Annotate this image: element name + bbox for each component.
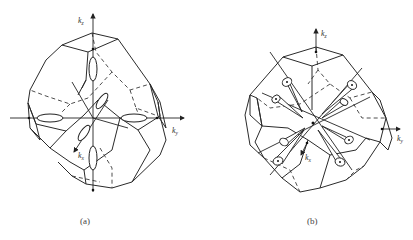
panel-b-diagram: kz ky kx bbox=[245, 29, 404, 192]
kz-label-b: kz bbox=[321, 29, 328, 39]
ky-label-b: ky bbox=[397, 134, 404, 144]
pocket-bottom-a bbox=[89, 146, 97, 170]
kz-label-a: kz bbox=[78, 16, 85, 26]
panel-a-diagram: kz ky kx bbox=[10, 14, 184, 192]
pocket-left-a bbox=[37, 114, 63, 122]
brillouin-zone-a bbox=[28, 33, 166, 188]
pocket-front-a bbox=[76, 124, 92, 143]
kx-label-a: kx bbox=[78, 151, 85, 161]
ky-label-a: ky bbox=[172, 126, 179, 136]
pocket-ul2-b bbox=[276, 97, 303, 118]
pocket-top-a bbox=[89, 57, 97, 81]
kx-label-b: kx bbox=[305, 153, 312, 163]
caption-b: (b) bbox=[307, 216, 318, 226]
cone-pockets-b bbox=[270, 51, 383, 168]
brillouin-zone-b bbox=[245, 47, 392, 192]
hidden-edges-b bbox=[257, 47, 386, 192]
caption-a: (a) bbox=[80, 216, 90, 226]
figure-canvas: kz ky kx bbox=[0, 0, 413, 240]
pocket-right-a bbox=[121, 114, 147, 122]
